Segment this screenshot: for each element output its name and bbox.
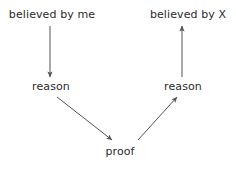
node-reason-right: reason	[164, 80, 202, 93]
diagram-canvas: believed by me believed by X reason reas…	[0, 0, 236, 169]
edge-proof-to-reason-right	[138, 97, 177, 140]
node-believed-by-x: believed by X	[150, 8, 226, 21]
edge-reason-left-to-proof	[57, 97, 112, 140]
node-proof: proof	[105, 145, 134, 158]
node-reason-left: reason	[32, 80, 70, 93]
node-believed-by-me: believed by me	[9, 8, 95, 21]
